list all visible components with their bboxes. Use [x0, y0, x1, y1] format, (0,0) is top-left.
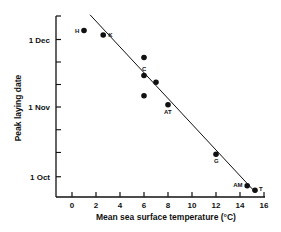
- x-axis-title: Mean sea surface temperature (°C): [96, 212, 236, 222]
- y-tick-label: 1 Nov: [28, 103, 50, 112]
- x-tick-label: 0: [70, 201, 75, 210]
- x-tick-label: 10: [188, 201, 197, 210]
- point-label: AT: [164, 109, 172, 115]
- y-tick-label: 1 Dec: [29, 36, 51, 45]
- data-point: [153, 79, 159, 85]
- data-points: HKCATGAMT: [75, 28, 263, 194]
- point-label: H: [75, 28, 79, 34]
- data-point: [81, 28, 87, 34]
- y-axis-title: Peak laying date: [13, 74, 23, 141]
- scatter-chart: 1 Oct1 Nov1 Dec Peak laying date 0246810…: [0, 0, 281, 232]
- x-tick-label: 6: [142, 201, 147, 210]
- point-label: AM: [233, 182, 242, 188]
- data-point: [165, 102, 171, 108]
- x-tick-label: 16: [260, 201, 269, 210]
- x-tick-label: 4: [118, 201, 123, 210]
- x-axis: 0246810121416 Mean sea surface temperatu…: [56, 192, 269, 222]
- data-point: [244, 183, 250, 189]
- x-tick-label: 8: [166, 201, 171, 210]
- data-point: [252, 187, 258, 193]
- y-tick-label: 1 Oct: [30, 173, 50, 182]
- x-tick-label: 2: [94, 201, 99, 210]
- x-ticks: 0246810121416: [70, 192, 269, 210]
- data-point: [141, 73, 147, 79]
- point-label: K: [108, 32, 113, 38]
- data-point: [141, 93, 147, 99]
- point-label: C: [142, 66, 147, 72]
- data-point: [141, 55, 147, 61]
- regression-line: [90, 15, 256, 193]
- data-point: [100, 32, 106, 38]
- data-point: [213, 151, 219, 157]
- y-axis: 1 Oct1 Nov1 Dec Peak laying date: [13, 16, 61, 197]
- x-tick-label: 12: [212, 201, 221, 210]
- point-label: G: [214, 158, 219, 164]
- x-tick-label: 14: [236, 201, 245, 210]
- point-label: T: [259, 186, 263, 192]
